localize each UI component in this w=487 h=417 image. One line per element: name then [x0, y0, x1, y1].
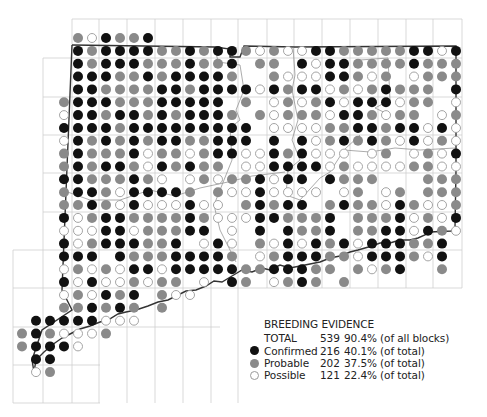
possible-dot [172, 291, 181, 300]
probable-dot [451, 72, 461, 82]
probable-dot [241, 277, 251, 287]
possible-dot [396, 136, 405, 145]
possible-dot [396, 98, 405, 107]
probable-dot [451, 59, 461, 69]
confirmed-dot [297, 149, 307, 159]
possible-dot [116, 278, 125, 287]
possible-dot [242, 149, 251, 158]
confirmed-dot [45, 341, 55, 351]
possible-dot [256, 149, 265, 158]
probable-dot [213, 59, 223, 69]
possible-dot [424, 136, 433, 145]
confirmed-dot [269, 264, 279, 274]
confirmed-dot [45, 316, 55, 326]
probable-dot [129, 97, 139, 107]
possible-dot [424, 124, 433, 133]
confirmed-dot [199, 226, 209, 236]
confirmed-dot [297, 264, 307, 274]
possible-dot [312, 124, 321, 133]
probable-dot [143, 239, 153, 249]
confirmed-dot [423, 46, 433, 56]
probable-dot [367, 213, 377, 223]
confirmed-dot [311, 251, 321, 261]
confirmed-dot [269, 84, 279, 94]
confirmed-dot [185, 213, 195, 223]
probable-dot [87, 149, 97, 159]
probable-dot [157, 239, 167, 249]
probable-dot [409, 200, 419, 210]
probable-dot [129, 303, 139, 313]
confirmed-dot [101, 213, 111, 223]
legend-count: 121 [320, 369, 344, 382]
confirmed-dot [143, 264, 153, 274]
confirmed-dot-icon [250, 346, 259, 355]
confirmed-dot [73, 187, 83, 197]
probable-dot [437, 59, 447, 69]
probable-dot [59, 187, 69, 197]
probable-dot [367, 46, 377, 56]
probable-dot [311, 213, 321, 223]
legend-row-possible: Possible 121 22.4% (of total) [250, 369, 449, 381]
probable-dot [171, 226, 181, 236]
probable-dot [409, 162, 419, 172]
probable-dot [45, 367, 55, 377]
probable-dot [451, 187, 461, 197]
possible-dot [214, 213, 223, 222]
probable-dot [73, 33, 83, 43]
possible-dot [130, 316, 139, 325]
probable-dot [353, 264, 363, 274]
probable-dot [45, 329, 55, 339]
probable-dot [437, 187, 447, 197]
confirmed-dot [409, 123, 419, 133]
possible-dot [116, 201, 125, 210]
probable-dot [423, 97, 433, 107]
confirmed-dot [87, 200, 97, 210]
confirmed-dot [339, 239, 349, 249]
probable-dot [87, 174, 97, 184]
legend-total-label: TOTAL [264, 332, 320, 345]
possible-dot [284, 124, 293, 133]
probable-dot [339, 46, 349, 56]
probable-dot [437, 72, 447, 82]
probable-dot [115, 33, 125, 43]
confirmed-dot [381, 226, 391, 236]
probable-dot [227, 251, 237, 261]
confirmed-dot [353, 123, 363, 133]
possible-dot [340, 149, 349, 158]
possible-dot [312, 149, 321, 158]
confirmed-dot [409, 46, 419, 56]
probable-dot [367, 110, 377, 120]
confirmed-dot [213, 149, 223, 159]
confirmed-dot [73, 316, 83, 326]
probable-dot [171, 46, 181, 56]
confirmed-dot [451, 84, 461, 94]
probable-dot [73, 303, 83, 313]
confirmed-dot [185, 251, 195, 261]
probable-dot [311, 110, 321, 120]
confirmed-dot [353, 110, 363, 120]
possible-dot [60, 226, 69, 235]
probable-dot [115, 72, 125, 82]
possible-dot [354, 252, 363, 261]
possible-dot [438, 201, 447, 210]
probable-dot [59, 149, 69, 159]
probable-dot [143, 213, 153, 223]
legend-row-confirmed: Confirmed 216 40.1% (of total) [250, 345, 449, 357]
confirmed-dot [339, 110, 349, 120]
possible-dot [144, 201, 153, 210]
confirmed-dot [171, 187, 181, 197]
confirmed-dot [269, 162, 279, 172]
probable-dot [143, 110, 153, 120]
probable-dot [437, 136, 447, 146]
probable-dot [101, 329, 111, 339]
possible-dot [88, 291, 97, 300]
probable-dot [255, 59, 265, 69]
possible-dot [298, 46, 307, 55]
confirmed-dot [101, 239, 111, 249]
probable-dot [423, 149, 433, 159]
possible-dot [410, 72, 419, 81]
legend-label: Confirmed [264, 345, 320, 358]
possible-dot [354, 162, 363, 171]
confirmed-dot [185, 226, 195, 236]
probable-dot [353, 46, 363, 56]
